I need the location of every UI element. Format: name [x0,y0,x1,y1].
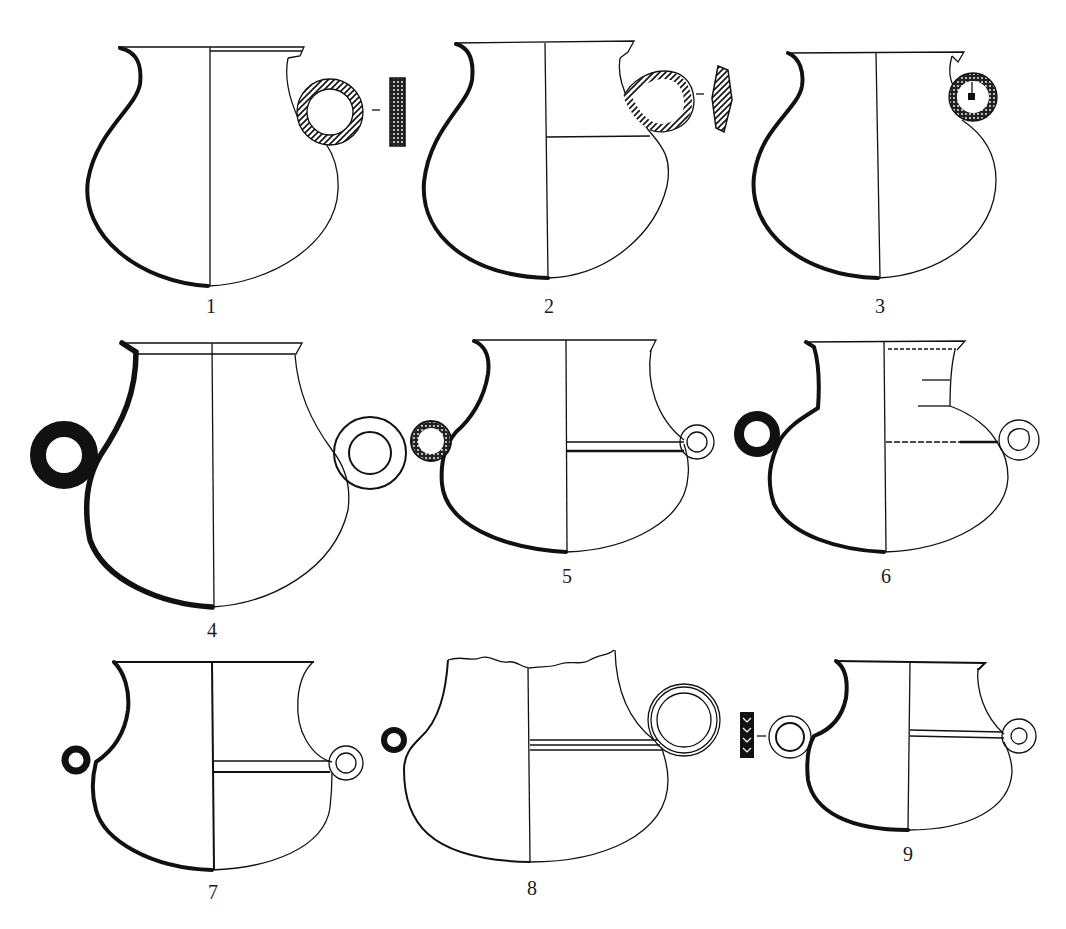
vessel-label-4: 4 [207,620,217,640]
vessel-label-2: 2 [544,296,554,316]
vessel-7 [65,662,363,870]
vessel-6 [739,341,1039,552]
vessel-label-1: 1 [206,296,216,316]
vessel-8 [384,650,720,862]
solid-ring-handle-icon [38,429,90,481]
handle-section-icon [712,66,732,132]
vessel-label-3: 3 [875,296,885,316]
ring-handle-icon [999,420,1039,460]
solid-ring-handle-icon [739,416,775,452]
ring-handle-icon [329,746,363,780]
solid-ring-handle-icon [384,730,404,750]
ring-handle-icon [1002,719,1036,753]
vessel-label-8: 8 [527,878,537,898]
vessel-label-5: 5 [562,566,572,586]
coiled-ring-handle-icon [949,73,997,121]
pottery-plate [0,0,1066,929]
vessel-2 [424,41,732,278]
vessel-label-6: 6 [881,566,891,586]
vessel-5 [411,340,714,552]
double-ring-handle-icon [648,684,720,756]
vessel-label-7: 7 [208,882,218,902]
vessel-3 [754,52,997,278]
beaded-ring-handle-icon [411,421,451,461]
ring-handle-icon [769,716,811,758]
vessel-9 [740,661,1036,830]
handle-section-icon [390,78,405,146]
vessel-4 [38,343,406,607]
vessel-1 [87,47,405,286]
ring-handle-icon [680,425,714,459]
solid-ring-handle-icon [65,749,87,771]
double-ring-handle-icon [334,417,406,489]
twisted-loop-handle-icon [624,71,694,132]
vessel-label-9: 9 [903,844,913,864]
handle-section-icon [740,712,754,758]
twisted-ring-handle-icon [297,79,363,145]
